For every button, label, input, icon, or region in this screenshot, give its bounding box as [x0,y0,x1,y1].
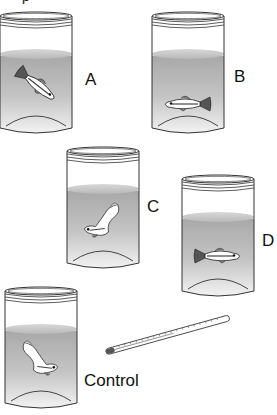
jar-b-illustration [150,10,226,138]
jar-control [3,285,79,413]
fish-b-icon [162,93,212,115]
jar-d [180,173,256,301]
jar-b [150,10,226,138]
jar-c [65,145,141,273]
cropped-text-fragment: p [22,0,30,3]
jar-a-label: A [85,71,96,88]
jar-b-label: B [234,68,245,85]
control-label: Control [84,372,139,389]
jar-d-illustration [180,173,256,301]
fish-control-icon [17,337,63,383]
jar-a [0,10,74,138]
jar-d-label: D [262,232,274,249]
fish-c-icon [79,199,125,245]
jar-c-label: C [147,198,159,215]
fish-d-icon [193,245,243,267]
